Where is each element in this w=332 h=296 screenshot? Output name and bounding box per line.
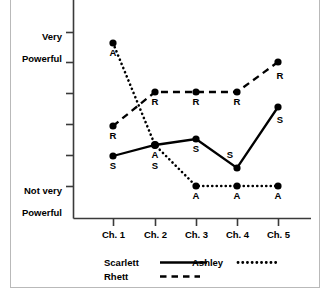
series-line-ashley — [113, 43, 278, 186]
line-chart: Very Powerful Not very Powerful Ch. 1 Ch… — [0, 0, 332, 296]
x-axis-ticks — [114, 219, 279, 227]
x-tick-label-ch3: Ch. 3 — [175, 229, 218, 240]
series-markers-scarlett — [109, 103, 281, 171]
data-point — [109, 122, 116, 129]
point-label-ashley-ch3: A — [189, 190, 203, 201]
legend-label-rhett: Rhett — [104, 271, 128, 282]
y-axis-bottom-label-line1: Not very — [24, 185, 62, 196]
point-label-scarlett-ch4: S — [223, 149, 237, 160]
point-label-ashley-ch4: A — [230, 190, 244, 201]
point-label-scarlett-ch5: S — [273, 114, 287, 125]
point-label-scarlett-ch2: S — [148, 160, 162, 171]
series-markers-ashley — [109, 39, 281, 189]
point-label-rhett-ch3: R — [189, 96, 203, 107]
y-axis-top-label-line2: Powerful — [22, 53, 62, 64]
point-label-rhett-ch2: R — [148, 96, 162, 107]
y-axis-bottom-label-line2: Powerful — [22, 207, 62, 218]
y-axis-bottom-label: Not very Powerful — [6, 174, 62, 218]
point-label-scarlett-ch1: S — [106, 160, 120, 171]
point-label-ashley-ch5: A — [271, 190, 285, 201]
y-axis-top-label: Very Powerful — [6, 20, 62, 64]
data-point — [274, 182, 281, 189]
data-point — [151, 141, 159, 149]
x-tick-label-ch4: Ch. 4 — [216, 229, 259, 240]
x-tick-label-ch2: Ch. 2 — [134, 229, 177, 240]
y-axis-top-label-line1: Very — [42, 31, 62, 42]
point-label-rhett-ch5: R — [273, 70, 287, 81]
legend-label-scarlett: Scarlett — [104, 257, 139, 268]
data-point — [151, 88, 158, 95]
data-point — [192, 182, 199, 189]
legend-label-ashley: Ashley — [192, 257, 223, 268]
point-label-rhett-ch1: R — [106, 130, 120, 141]
series-markers-rhett — [109, 58, 281, 129]
x-tick-label-ch5: Ch. 5 — [257, 229, 300, 240]
data-point — [233, 88, 240, 95]
data-point — [233, 182, 240, 189]
data-point — [192, 135, 199, 142]
point-label-scarlett-ch3: S — [189, 143, 203, 154]
point-label-ashley-ch1: A — [106, 47, 120, 58]
data-point — [274, 58, 281, 65]
y-axis-ticks — [66, 33, 74, 187]
data-point — [109, 39, 116, 46]
point-label-ashley-ch2: A — [148, 149, 162, 160]
x-tick-label-ch1: Ch. 1 — [92, 229, 135, 240]
data-point — [233, 164, 240, 171]
data-point — [274, 103, 281, 110]
point-label-rhett-ch4: R — [230, 96, 244, 107]
data-point — [109, 152, 116, 159]
data-point — [192, 88, 199, 95]
